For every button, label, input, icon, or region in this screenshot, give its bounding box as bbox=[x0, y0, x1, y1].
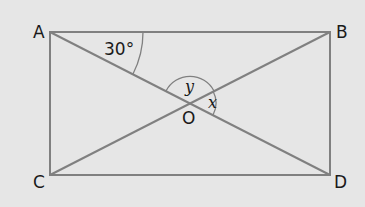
vertex-label-a: A bbox=[33, 22, 45, 42]
angle-label-x: x bbox=[208, 93, 217, 112]
angle-label-30: 30° bbox=[104, 39, 134, 59]
rectangle-diagonals-diagram: A B C D O 30° y x bbox=[0, 0, 365, 207]
vertex-label-c: C bbox=[33, 172, 45, 192]
angle-arc-30 bbox=[133, 32, 143, 74]
center-label-o: O bbox=[182, 108, 195, 128]
vertex-label-b: B bbox=[336, 22, 348, 42]
vertex-label-d: D bbox=[334, 172, 347, 192]
angle-label-y: y bbox=[184, 77, 195, 96]
